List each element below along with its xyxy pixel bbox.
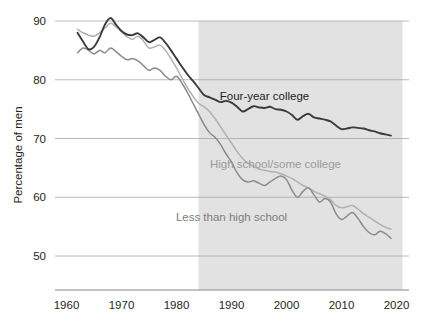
annotation-four-year-college: Four-year college (220, 90, 309, 102)
annotation-high-school-some-college: High school/some college (210, 158, 341, 170)
x-tick-label-1970: 1970 (109, 299, 135, 311)
annotation-less-than-high-school: Less than high school (176, 211, 287, 223)
x-tick-label-2000: 2000 (274, 299, 300, 311)
shaded-period-region (199, 21, 403, 290)
x-tick-label-1960: 1960 (54, 299, 80, 311)
x-tick-label-1980: 1980 (164, 299, 190, 311)
x-tick-label-2020: 2020 (384, 299, 410, 311)
y-tick-label-90: 90 (33, 15, 46, 27)
y-tick-label-70: 70 (33, 133, 46, 145)
x-tick-label-1990: 1990 (219, 299, 245, 311)
x-tick-label-2010: 2010 (329, 299, 355, 311)
y-tick-label-60: 60 (33, 191, 46, 203)
y-tick-label-50: 50 (33, 250, 46, 262)
y-axis-title: Percentage of men (12, 106, 24, 203)
labor-force-participation-line-chart: 5060708090 1960197019801990200020102020 … (0, 0, 428, 330)
chart-container: 5060708090 1960197019801990200020102020 … (0, 0, 428, 330)
y-tick-label-80: 80 (33, 74, 46, 86)
